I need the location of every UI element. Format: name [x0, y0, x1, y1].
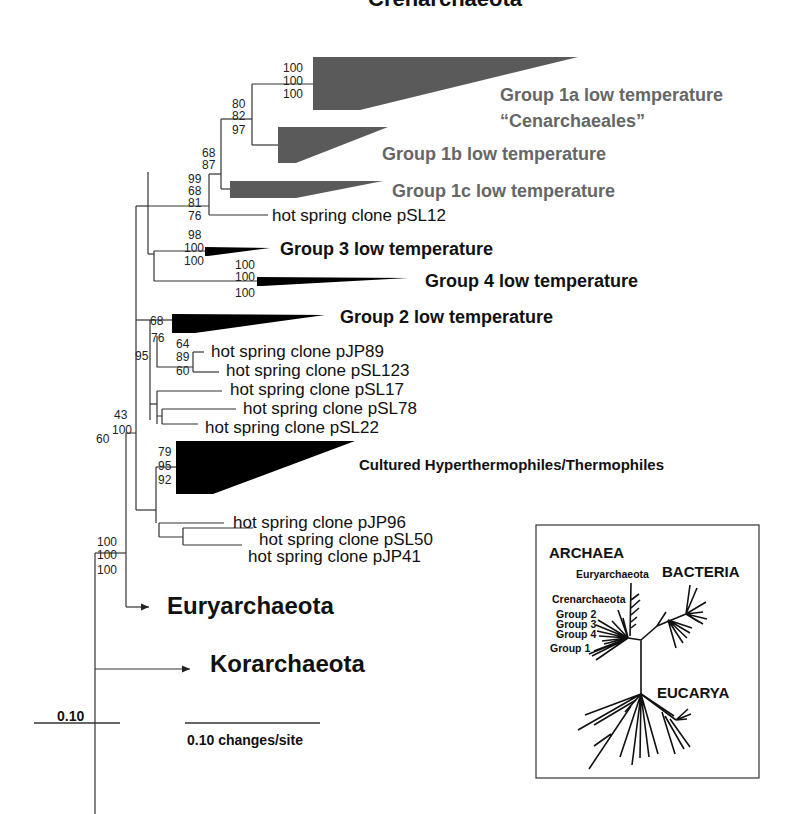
- bootstrap-value: 100: [235, 287, 255, 299]
- bootstrap-value: 82: [232, 110, 245, 122]
- bootstrap-value: 97: [232, 124, 245, 136]
- bootstrap-value: 100: [283, 88, 303, 100]
- clade-label-cultured: Cultured Hyperthermophiles/Thermophiles: [359, 457, 664, 472]
- clade-label-group2: Group 2 low temperature: [340, 308, 553, 326]
- inset-label-group1: Group 1: [550, 643, 590, 654]
- bootstrap-value: 100: [184, 255, 204, 267]
- leaf-label: hot spring clone pSL17: [230, 381, 404, 398]
- bootstrap-value: 76: [188, 210, 201, 222]
- clade-label-group1c: Group 1c low temperature: [392, 182, 615, 200]
- phylogenetic-tree-figure: Crenarchaeota 100 100 100 80 82 97 68 87…: [0, 0, 799, 814]
- clade-label-cenarchaeales: “Cenarchaeales”: [500, 112, 645, 130]
- inset-label-eucarya: EUCARYA: [657, 685, 729, 700]
- figure-title: Crenarchaeota: [368, 0, 522, 10]
- clade-group1b: [278, 127, 388, 163]
- bootstrap-value: 60: [176, 365, 189, 377]
- bootstrap-value: 81: [188, 197, 201, 209]
- branch-to-pSL78: [157, 409, 236, 416]
- bootstrap-value: 95: [135, 350, 148, 362]
- inset-label-bacteria: BACTERIA: [662, 564, 740, 579]
- bootstrap-value: 100: [97, 549, 117, 561]
- bootstrap-value: 92: [158, 474, 171, 486]
- bootstrap-value: 100: [97, 564, 117, 576]
- bootstrap-value: 76: [151, 332, 164, 344]
- outgroup-korarchaeota: Korarchaeota: [210, 652, 365, 676]
- clade-group3: [205, 247, 270, 256]
- clade-group4: [257, 277, 408, 286]
- scale-label-right: 0.10 changes/site: [187, 733, 303, 747]
- leaf-label: hot spring clone pSL22: [205, 419, 379, 436]
- bootstrap-value: 100: [283, 62, 303, 74]
- bootstrap-value: 100: [283, 75, 303, 87]
- leaf-label: hot spring clone pJP41: [248, 548, 421, 565]
- clade-group1c: [230, 181, 383, 198]
- clade-label-group3: Group 3 low temperature: [280, 240, 493, 258]
- leaf-label: hot spring clone pSL123: [226, 362, 409, 379]
- clade-label-group1b: Group 1b low temperature: [382, 145, 606, 163]
- inset-label-archaea: ARCHAEA: [549, 545, 624, 560]
- clade-cultured: [176, 441, 355, 494]
- clade-group2: [172, 314, 325, 333]
- bootstrap-value: 95: [158, 460, 171, 472]
- bootstrap-value: 100: [184, 242, 204, 254]
- branch-pSL50-pJP41-vertical: [159, 528, 183, 545]
- inset-label-group4: Group 4: [556, 629, 596, 640]
- scale-label-left: 0.10: [57, 709, 84, 723]
- leaf-label: hot spring clone pJP89: [211, 343, 384, 360]
- leaf-label: hot spring clone pSL50: [259, 531, 433, 548]
- bootstrap-value: 68: [150, 315, 163, 327]
- bootstrap-value: 100: [97, 536, 117, 548]
- bootstrap-value: 98: [188, 229, 201, 241]
- leaf-label: hot spring clone pSL12: [272, 207, 446, 224]
- clade-label-group4: Group 4 low temperature: [425, 272, 638, 290]
- bootstrap-value: 79: [158, 446, 171, 458]
- bootstrap-value: 100: [112, 424, 132, 436]
- bootstrap-value: 60: [96, 433, 109, 445]
- inset-label-crenarchaeota: Crenarchaeota: [552, 594, 626, 605]
- bootstrap-value: 43: [114, 409, 127, 421]
- leaf-label: hot spring clone pSL78: [243, 400, 417, 417]
- bootstrap-value: 89: [176, 351, 189, 363]
- bootstrap-value: 100: [235, 271, 255, 283]
- branch-lower-clones: [159, 523, 224, 537]
- leaf-label: hot spring clone pJP96: [233, 514, 406, 531]
- outgroup-euryarchaeota: Euryarchaeota: [167, 594, 334, 618]
- clade-label-group1a: Group 1a low temperature: [500, 86, 723, 104]
- bootstrap-value: 64: [176, 338, 189, 350]
- bootstrap-value: 87: [202, 159, 215, 171]
- inset-label-euryarchaeota: Euryarchaeota: [576, 569, 649, 580]
